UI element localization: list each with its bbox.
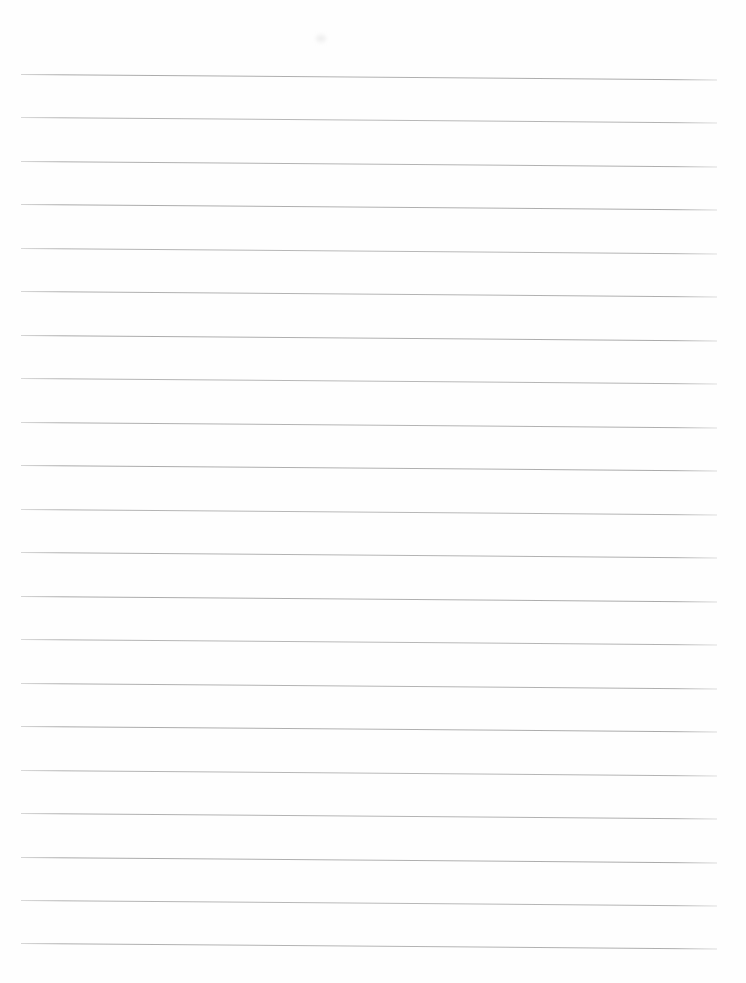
ruled-line	[21, 639, 717, 645]
ruled-line	[21, 726, 717, 732]
ruled-line	[21, 900, 717, 906]
ruled-line	[21, 770, 717, 776]
ruled-line	[21, 161, 717, 167]
ruled-line	[21, 857, 717, 863]
ruled-line	[21, 683, 717, 689]
lined-paper-page	[0, 0, 746, 983]
ruled-line	[21, 552, 717, 558]
ruled-line	[21, 335, 717, 341]
ruled-line	[21, 422, 717, 428]
ruled-line	[21, 509, 717, 515]
ruled-line	[21, 813, 717, 819]
ruled-line	[21, 943, 717, 949]
ruled-line	[21, 465, 717, 471]
ruled-line	[21, 378, 717, 384]
ruled-line	[21, 74, 717, 80]
ruled-line	[21, 248, 717, 254]
ruled-line	[21, 596, 717, 602]
scan-smudge-artifact	[316, 35, 326, 42]
ruled-line	[21, 117, 717, 123]
ruled-line	[21, 204, 717, 210]
ruled-line	[21, 291, 717, 297]
